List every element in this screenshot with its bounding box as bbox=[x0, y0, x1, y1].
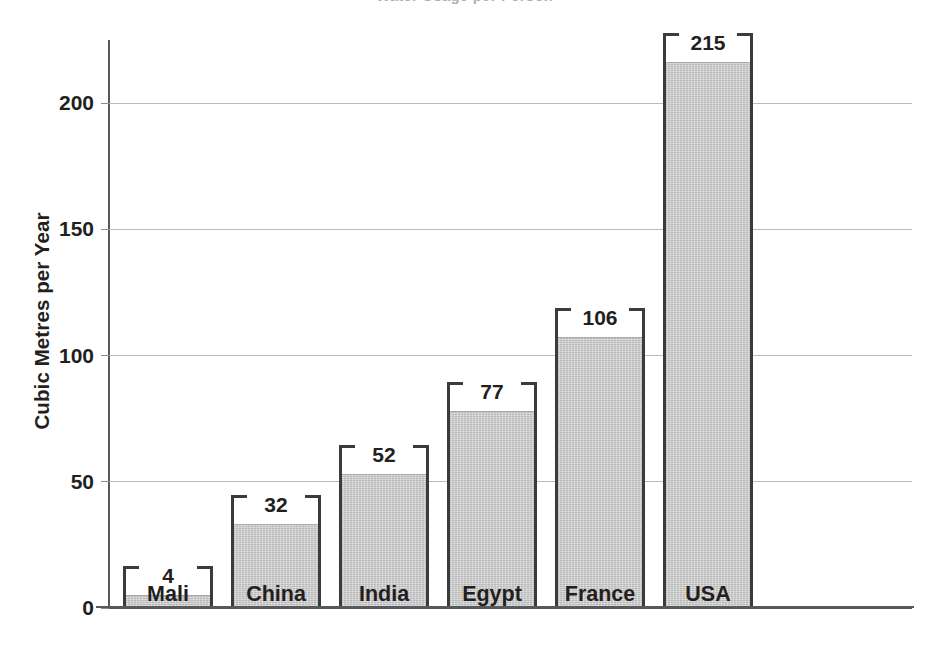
x-axis-label-china: China bbox=[246, 582, 306, 607]
bar-flange-right bbox=[629, 308, 645, 311]
bar-flange-right bbox=[737, 33, 753, 36]
bar-flange-left bbox=[663, 33, 679, 36]
x-axis-label-egypt: Egypt bbox=[462, 582, 522, 607]
bar-wall-left bbox=[663, 33, 666, 606]
x-axis-label-usa: USA bbox=[685, 582, 730, 607]
bar-usa[interactable]: 215 bbox=[664, 33, 752, 606]
bar-wall-left bbox=[447, 382, 450, 606]
bar-france[interactable]: 106 bbox=[556, 308, 644, 606]
y-axis-tick-label: 50 bbox=[71, 470, 94, 494]
bar-wall-right bbox=[318, 495, 321, 606]
bar-wall-right bbox=[534, 382, 537, 606]
bar-wall-left bbox=[123, 566, 126, 606]
y-axis-tick bbox=[101, 355, 109, 356]
bar-flange-left bbox=[231, 495, 247, 498]
bar-fill bbox=[664, 62, 752, 606]
bar-value-label: 52 bbox=[372, 443, 395, 467]
bar-wall-right bbox=[642, 308, 645, 606]
y-axis-tick-label: 200 bbox=[59, 91, 94, 115]
y-axis-tick-label: 0 bbox=[82, 596, 94, 620]
bar-wall-right bbox=[750, 33, 753, 606]
bar-value-label: 32 bbox=[264, 493, 287, 517]
x-axis-label-india: India bbox=[359, 582, 409, 607]
bar-flange-right bbox=[521, 382, 537, 385]
y-axis-tick bbox=[101, 608, 109, 609]
x-axis-label-france: France bbox=[565, 582, 636, 607]
gridline bbox=[108, 229, 912, 230]
bar-fill bbox=[556, 337, 644, 606]
bar-flange-left bbox=[123, 566, 139, 569]
y-axis-tick-label: 100 bbox=[59, 344, 94, 368]
gridline bbox=[108, 355, 912, 356]
bar-fill bbox=[448, 411, 536, 606]
bar-flange-left bbox=[555, 308, 571, 311]
bar-wall-left bbox=[555, 308, 558, 606]
y-axis-tick bbox=[101, 103, 109, 104]
bar-wall-left bbox=[231, 495, 234, 606]
y-axis-tick-label: 150 bbox=[59, 217, 94, 241]
bar-value-label: 106 bbox=[582, 306, 617, 330]
bar-flange-right bbox=[305, 495, 321, 498]
gridline bbox=[108, 608, 912, 609]
bar-chart-figure: Water Usage per Person Cubic Metres per … bbox=[0, 0, 929, 663]
y-axis-line bbox=[108, 40, 110, 608]
bar-wall-right bbox=[426, 445, 429, 606]
bar-flange-left bbox=[447, 382, 463, 385]
y-axis-tick bbox=[101, 481, 109, 482]
bar-value-label: 77 bbox=[480, 380, 503, 404]
bar-wall-left bbox=[339, 445, 342, 606]
bar-flange-right bbox=[413, 445, 429, 448]
x-axis-label-mali: Mali bbox=[147, 582, 189, 607]
bar-value-label: 215 bbox=[690, 31, 725, 55]
plot-area: 050100150200 4325277106215 bbox=[108, 40, 912, 608]
bar-flange-right bbox=[197, 566, 213, 569]
y-axis-title: Cubic Metres per Year bbox=[30, 111, 54, 531]
gridline bbox=[108, 103, 912, 104]
bar-flange-left bbox=[339, 445, 355, 448]
bar-wall-right bbox=[210, 566, 213, 606]
chart-title: Water Usage per Person bbox=[0, 0, 929, 7]
y-axis-tick bbox=[101, 229, 109, 230]
bar-egypt[interactable]: 77 bbox=[448, 382, 536, 606]
